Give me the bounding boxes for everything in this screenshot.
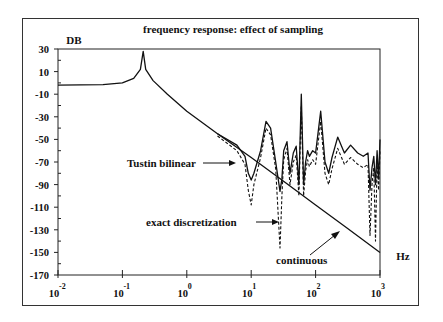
x-tick-label-exponent: -1 bbox=[123, 282, 130, 291]
x-tick-label-base: 10 bbox=[306, 288, 317, 299]
y-tick-label: -150 bbox=[30, 247, 49, 258]
x-tick-label-exponent: -2 bbox=[59, 282, 66, 291]
y-axis-ticks: 3010-10-30-50-70-90-110-130-150-170 bbox=[30, 44, 61, 281]
x-tick-label-exponent: 3 bbox=[381, 282, 385, 291]
arrowhead-icon bbox=[272, 219, 279, 225]
series-tustin-bilinear bbox=[218, 94, 381, 191]
annotation-exact: exact discretization bbox=[146, 216, 279, 228]
y-tick-label: -10 bbox=[35, 89, 49, 100]
annotation-tustin-label: Tustin bilinear bbox=[127, 157, 196, 169]
x-tick-label-base: 10 bbox=[371, 288, 382, 299]
y-tick-label: -90 bbox=[35, 180, 49, 191]
annotation-tustin: Tustin bilinear bbox=[127, 157, 236, 169]
x-tick-label-exponent: 2 bbox=[317, 282, 321, 291]
x-tick-label-base: 10 bbox=[242, 288, 253, 299]
annotation-continuous: continuous bbox=[276, 231, 340, 266]
chart-title: frequency response: effect of sampling bbox=[143, 23, 323, 35]
annotation-exact-label: exact discretization bbox=[146, 216, 237, 228]
x-axis-label: Hz bbox=[396, 250, 410, 262]
x-tick-label-base: 10 bbox=[49, 288, 60, 299]
annotation-continuous-label: continuous bbox=[276, 254, 328, 266]
arrowhead-icon bbox=[331, 231, 340, 239]
x-axis-ticks: 10-210-1100101102103 bbox=[49, 270, 385, 299]
y-tick-label: 30 bbox=[39, 44, 50, 55]
y-tick-label: -70 bbox=[35, 157, 49, 168]
x-tick-label-exponent: 1 bbox=[252, 282, 256, 291]
y-tick-label: 10 bbox=[39, 67, 50, 78]
y-tick-label: -130 bbox=[30, 225, 49, 236]
y-tick-label: -30 bbox=[35, 112, 49, 123]
x-tick-label-base: 10 bbox=[113, 288, 124, 299]
y-tick-label: -170 bbox=[30, 270, 49, 281]
x-tick-label-exponent: 0 bbox=[188, 282, 192, 291]
arrow-line bbox=[310, 235, 335, 255]
y-axis-label: DB bbox=[66, 34, 82, 46]
y-tick-label: -50 bbox=[35, 134, 49, 145]
frequency-response-chart: frequency response: effect of sampling D… bbox=[0, 0, 443, 322]
x-tick-label-base: 10 bbox=[178, 288, 189, 299]
y-tick-label: -110 bbox=[30, 202, 49, 213]
arrowhead-icon bbox=[229, 160, 236, 166]
